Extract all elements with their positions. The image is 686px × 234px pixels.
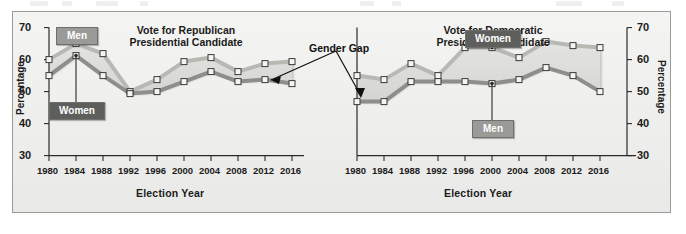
y-tick-left-30: 30 (19, 149, 31, 161)
x-tick-right-1996: 1996 (453, 165, 474, 176)
x-ticks-left (49, 156, 292, 161)
figure-root: 70 60 50 40 30 70 60 50 40 30 Percentage… (0, 0, 686, 234)
gender-gap-label: Gender Gap (309, 42, 369, 54)
leader-dot-women-left (74, 54, 78, 58)
x-tick-left-2016: 2016 (280, 165, 301, 176)
leader-dot-men-right (490, 82, 494, 86)
x-tick-left-2012: 2012 (253, 165, 274, 176)
x-tick-right-2008: 2008 (534, 165, 555, 176)
y-ticks-left (44, 28, 49, 156)
chart-title-republican-line2: Presidential Candidate (121, 36, 251, 48)
callout-women-democratic: Women (465, 30, 521, 48)
x-tick-left-2008: 2008 (226, 165, 247, 176)
callout-men-republican: Men (56, 27, 98, 45)
callout-women-republican: Women (49, 102, 105, 120)
x-tick-left-2000: 2000 (172, 165, 193, 176)
x-tick-right-2012: 2012 (561, 165, 582, 176)
y-axis-title-left: Percentage (15, 61, 26, 115)
x-tick-right-1988: 1988 (399, 165, 420, 176)
y-tick-left-40: 40 (19, 117, 31, 129)
x-tick-right-2000: 2000 (480, 165, 501, 176)
y-ticks-right (627, 28, 632, 156)
x-tick-left-1984: 1984 (64, 165, 85, 176)
y-tick-left-70: 70 (19, 21, 31, 33)
x-tick-left-1992: 1992 (118, 165, 139, 176)
x-tick-left-1988: 1988 (91, 165, 112, 176)
chart-title-republican: Vote for Republican Presidential Candida… (121, 24, 251, 48)
x-tick-right-1992: 1992 (426, 165, 447, 176)
x-tick-left-1996: 1996 (145, 165, 166, 176)
callout-men-democratic: Men (472, 120, 514, 138)
scan-artifact-strip (0, 0, 686, 9)
x-tick-left-2004: 2004 (199, 165, 220, 176)
y-tick-right-60: 60 (637, 53, 649, 65)
chart-frame: 70 60 50 40 30 70 60 50 40 30 Percentage… (12, 11, 671, 213)
x-tick-left-1980: 1980 (37, 165, 58, 176)
x-tick-right-1984: 1984 (372, 165, 393, 176)
gender-gap-annotation-arrows (271, 51, 361, 96)
x-axis-title-left: Election Year (136, 187, 204, 199)
x-ticks-right (357, 156, 600, 161)
x-tick-right-2004: 2004 (507, 165, 528, 176)
x-tick-right-1980: 1980 (345, 165, 366, 176)
x-axis-title-right: Election Year (444, 187, 512, 199)
y-tick-right-40: 40 (637, 117, 649, 129)
y-tick-right-70: 70 (637, 21, 649, 33)
x-tick-right-2016: 2016 (588, 165, 609, 176)
chart-title-republican-line1: Vote for Republican (121, 24, 251, 36)
y-tick-right-50: 50 (637, 85, 649, 97)
y-tick-right-30: 30 (637, 149, 649, 161)
y-axis-title-right: Percentage (656, 60, 667, 114)
